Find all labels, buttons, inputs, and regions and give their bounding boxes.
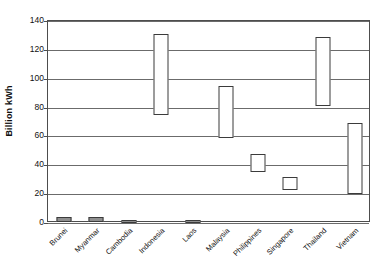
y-axis-tick-label: 120 xyxy=(30,44,44,54)
bar-vietnam[interactable] xyxy=(347,123,362,194)
y-axis-tick-label: 140 xyxy=(30,15,44,25)
y-axis-tick-labels: 020406080100120140 xyxy=(14,20,44,222)
x-label-slot: Vietnam xyxy=(338,224,370,274)
x-label-slot: Laos xyxy=(176,224,208,274)
bar-slot xyxy=(80,21,112,221)
bar-slot xyxy=(210,21,242,221)
bar-singapore[interactable] xyxy=(283,177,298,190)
bar-slot xyxy=(48,21,80,221)
y-axis-tick-label: 40 xyxy=(35,159,44,169)
bar-indonesia[interactable] xyxy=(154,34,169,115)
x-axis-tick-label-malaysia: Malaysia xyxy=(204,226,231,253)
x-axis-tick-label-thailand: Thailand xyxy=(301,226,328,253)
bar-slot xyxy=(274,21,306,221)
x-label-slot: Singapore xyxy=(273,224,305,274)
bar-brunei[interactable] xyxy=(57,217,72,221)
x-label-slot: Thailand xyxy=(305,224,337,274)
y-axis-tick-label: 20 xyxy=(35,188,44,198)
bar-malaysia[interactable] xyxy=(218,86,233,138)
y-axis-tick-label: 0 xyxy=(39,217,44,227)
bar-philippines[interactable] xyxy=(250,154,265,173)
y-axis-tick-label: 100 xyxy=(30,73,44,83)
y-axis-tick-label: 80 xyxy=(35,102,44,112)
y-axis-title-label: Billion kWh xyxy=(4,85,14,136)
bar-myanmar[interactable] xyxy=(89,217,104,221)
x-label-slot: Indonesia xyxy=(144,224,176,274)
bar-slot xyxy=(242,21,274,221)
bar-slot xyxy=(113,21,145,221)
bar-slot xyxy=(339,21,371,221)
bar-thailand[interactable] xyxy=(315,37,330,106)
bar-laos[interactable] xyxy=(186,220,201,223)
x-axis-tick-label-brunei: Brunei xyxy=(48,226,70,248)
bars-layer xyxy=(48,21,369,221)
x-axis-tick-label-vietnam: Vietnam xyxy=(334,226,360,252)
bar-slot xyxy=(306,21,338,221)
y-axis-tick-label: 60 xyxy=(35,130,44,140)
bar-cambodia[interactable] xyxy=(121,220,136,223)
chart-container: Billion kWh 020406080100120140 BruneiMya… xyxy=(0,0,385,274)
bar-slot xyxy=(177,21,209,221)
plot-area xyxy=(47,20,370,222)
bar-slot xyxy=(145,21,177,221)
x-axis-tick-label-laos: Laos xyxy=(181,226,199,244)
x-axis-tick-labels: BruneiMyanmarCambodiaIndonesiaLaosMalays… xyxy=(47,224,370,274)
